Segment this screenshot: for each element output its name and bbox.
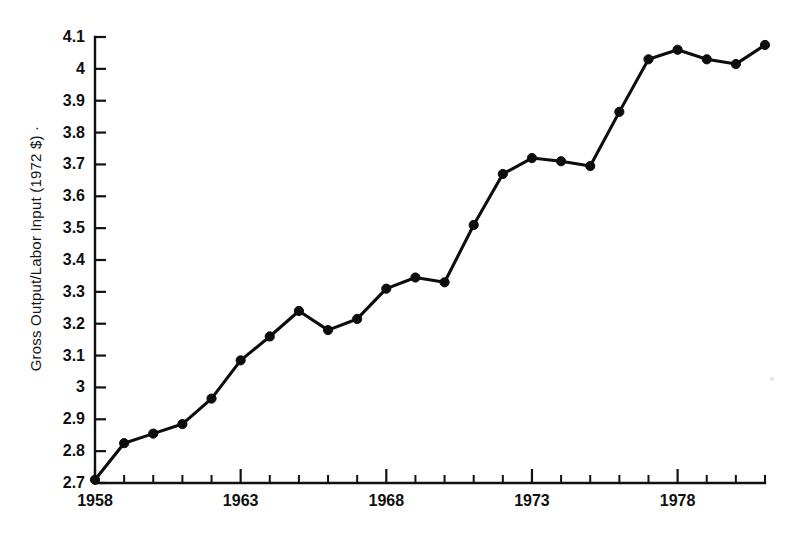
axes-group: [95, 37, 765, 483]
data-point-1980: [731, 59, 740, 68]
data-point-1977: [644, 55, 653, 64]
data-point-1967: [353, 314, 362, 323]
data-series-group: [90, 40, 769, 484]
data-point-1968: [382, 284, 391, 293]
data-point-1978: [673, 45, 682, 54]
data-point-1966: [323, 325, 332, 334]
data-point-1979: [702, 55, 711, 64]
data-point-1959: [120, 439, 129, 448]
data-point-1972: [498, 169, 507, 178]
data-point-1970: [440, 278, 449, 287]
data-point-1964: [265, 332, 274, 341]
series-line-0: [95, 45, 765, 480]
data-point-1976: [615, 107, 624, 116]
data-point-1962: [207, 394, 216, 403]
data-point-1981: [760, 40, 769, 49]
data-point-1958: [90, 475, 99, 484]
scan-artifact-speck: [770, 377, 774, 381]
data-point-1961: [178, 419, 187, 428]
data-point-1973: [527, 153, 536, 162]
line-chart-figure: Gross Output/Labor Input (1972 $) · 4.14…: [0, 0, 810, 545]
data-point-1975: [586, 161, 595, 170]
data-point-1960: [149, 429, 158, 438]
data-point-1969: [411, 273, 420, 282]
data-point-1971: [469, 220, 478, 229]
tick-marks-group: [95, 37, 765, 483]
data-point-1963: [236, 356, 245, 365]
plot-area: [0, 0, 810, 545]
axis-spines: [95, 37, 765, 483]
data-point-1974: [556, 157, 565, 166]
data-point-1965: [294, 306, 303, 315]
